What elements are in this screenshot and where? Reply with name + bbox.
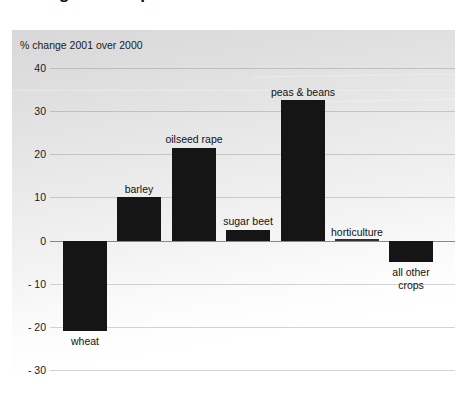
bar-label-line: horticulture [297,226,417,239]
bar-peas-beans [281,100,325,240]
bar-label: oilseed rape [134,133,254,146]
bar-label-line: wheat [25,335,145,348]
bar-label: peas & beans [243,86,363,99]
bar-label: wheat [25,335,145,348]
bar-label: horticulture [297,226,417,239]
bar-label-line: all other [351,266,455,279]
bar-sugar-beet [226,230,270,241]
bars-layer: wheatbarleyoilseed rapesugar beetpeas & … [12,30,455,385]
bar-barley [117,197,161,240]
bar-all-other-crops [389,241,433,263]
bar-horticulture [335,239,379,241]
bar-wheat [63,241,107,332]
bar-label-line: oilseed rape [134,133,254,146]
figure-title-cropped: Changes in crop areas [0,0,468,18]
chart-figure: Changes in crop areas % change 2001 over… [0,0,468,394]
figure-title-text: Changes in crop areas [16,0,200,4]
bar-label-line: peas & beans [243,86,363,99]
plot-area: % change 2001 over 2000 403020100- 10- 2… [12,30,455,385]
bar-label-line: crops [351,279,455,292]
bar-label: all othercrops [351,266,455,291]
